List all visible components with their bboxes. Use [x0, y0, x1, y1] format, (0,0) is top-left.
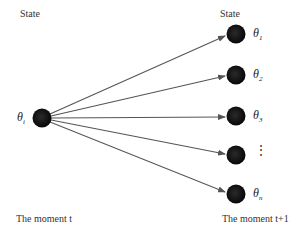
target-label-1: θ1: [253, 26, 262, 42]
theta-subscript: 2: [259, 75, 263, 83]
target-label-n: θn: [253, 186, 262, 202]
target-node-n: [227, 185, 246, 204]
arrow-to-theta-1: [50, 36, 225, 114]
theta-subscript: 3: [259, 116, 263, 124]
target-label-3: θ3: [253, 108, 262, 124]
target-node-ellipsis: [227, 146, 246, 165]
transition-arrows: [50, 36, 225, 192]
left-state-header: State: [20, 8, 40, 19]
arrow-to-theta-ellipsis: [51, 120, 225, 154]
source-state-label: θi: [17, 110, 25, 126]
theta-subscript: 1: [259, 34, 263, 42]
arrow-to-theta-2: [51, 76, 225, 116]
target-state-nodes: [227, 25, 246, 204]
right-moment-footer: The moment t+1: [222, 213, 289, 224]
source-state-node: [33, 109, 52, 128]
target-label-2: θ2: [253, 67, 262, 83]
arrow-to-theta-3: [51, 117, 225, 118]
arrow-to-theta-n: [50, 122, 225, 192]
target-label-ellipsis: ⋮: [255, 148, 267, 153]
target-node-3: [227, 107, 246, 126]
theta-subscript: n: [259, 194, 263, 202]
target-node-1: [227, 25, 246, 44]
theta-subscript: i: [23, 118, 25, 126]
left-moment-footer: The moment t: [16, 213, 72, 224]
state-transition-diagram: State State θi θ1 θ2 θ3 ⋮ θn The moment …: [0, 0, 297, 233]
right-state-header: State: [220, 8, 240, 19]
target-node-2: [227, 66, 246, 85]
